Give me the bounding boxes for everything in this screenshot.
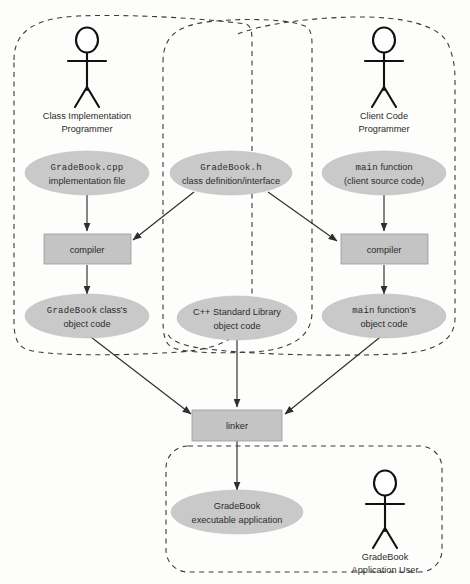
node-shape — [25, 151, 149, 195]
process-compiler-right[interactable]: compiler — [341, 234, 428, 264]
process-label: linker — [226, 421, 248, 431]
process-label: compiler — [70, 245, 105, 255]
node-label-line1: GradeBook.cpp — [51, 163, 124, 173]
node-label-line1: C++ Standard Library — [193, 307, 281, 317]
actor-gradebook-application-user: GradeBook Application User — [352, 471, 419, 576]
node-shape — [322, 294, 446, 338]
node-label-line1: GradeBook class's — [47, 305, 128, 316]
arrow-gradebook-object-to-linker — [87, 334, 191, 414]
actor-left-leg-line — [75, 87, 87, 107]
actor-right-leg-line — [385, 528, 397, 548]
node-label-line2: object code — [214, 321, 261, 331]
node-label-sans-part: class's — [97, 305, 127, 315]
node-label-line2: object code — [361, 319, 408, 329]
node-label-line1: GradeBook — [214, 501, 261, 511]
node-main-function-source[interactable]: main function (client source code) — [322, 151, 446, 195]
node-shape — [322, 151, 446, 195]
process-linker[interactable]: linker — [192, 410, 282, 441]
process-compiler-left[interactable]: compiler — [44, 234, 131, 264]
flow-arrows — [87, 192, 384, 490]
node-label-line2: object code — [64, 319, 111, 329]
node-label-line1: main function — [355, 162, 412, 173]
node-shape — [25, 294, 149, 338]
actor-label-line1: GradeBook — [362, 552, 409, 562]
compilation-process-diagram: Class Implementation Programmer Client C… — [0, 0, 470, 584]
actor-head-icon — [76, 28, 98, 53]
node-label-line1: GradeBook.h — [200, 163, 262, 173]
arrow-header-to-compiler-right — [268, 192, 337, 241]
actor-left-leg-line — [372, 87, 384, 107]
actor-left-leg-line — [373, 528, 385, 548]
actor-right-leg-line — [87, 87, 99, 107]
node-label-line2: (client source code) — [344, 176, 424, 186]
node-gradebook-h[interactable]: GradeBook.h class definition/interface — [170, 151, 292, 195]
actor-label-line2: Application User — [352, 565, 419, 575]
process-label: compiler — [367, 245, 402, 255]
actor-head-icon — [373, 28, 395, 53]
actor-label-line1: Client Code — [360, 111, 408, 121]
node-label-sans-part: function's — [375, 305, 416, 315]
actor-label-line2: Programmer — [61, 124, 112, 134]
node-label-mono-part: main — [352, 306, 374, 316]
actor-class-implementation-programmer: Class Implementation Programmer — [43, 28, 131, 135]
node-main-function-object-code[interactable]: main function's object code — [322, 294, 446, 338]
node-shape — [171, 490, 303, 534]
arrow-main-object-to-linker — [285, 334, 384, 414]
node-gradebook-cpp[interactable]: GradeBook.cpp implementation file — [25, 151, 149, 195]
node-gradebook-executable[interactable]: GradeBook executable application — [171, 490, 303, 534]
actor-right-leg-line — [384, 87, 396, 107]
node-shape — [170, 151, 292, 195]
node-label-mono-part: GradeBook — [47, 306, 97, 316]
node-shape — [177, 296, 297, 340]
node-label-line2: executable application — [192, 515, 283, 525]
actor-label-line2: Programmer — [358, 124, 409, 134]
actor-label-line1: Class Implementation — [43, 111, 131, 121]
node-gradebook-object-code[interactable]: GradeBook class's object code — [25, 294, 149, 338]
node-label-line2: class definition/interface — [182, 176, 280, 186]
actor-head-icon — [374, 471, 396, 496]
node-label-mono-part: main — [355, 163, 377, 173]
actor-client-code-programmer: Client Code Programmer — [358, 28, 409, 135]
node-label-sans-part: function — [378, 162, 413, 172]
node-cpp-standard-library-object-code[interactable]: C++ Standard Library object code — [177, 296, 297, 340]
node-label-line2: implementation file — [49, 176, 126, 186]
node-label-line1: main function's — [352, 305, 416, 316]
